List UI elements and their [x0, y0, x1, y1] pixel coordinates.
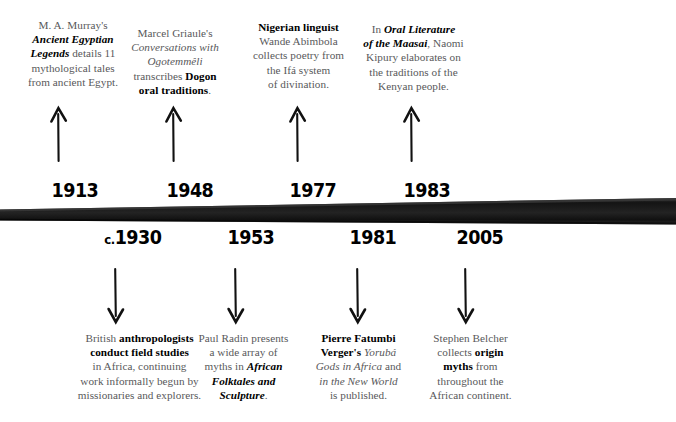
- text-line: Kenyan people.: [345, 79, 482, 93]
- timeline-bar: [0, 198, 676, 232]
- text-line: Stephen Belcher: [408, 331, 533, 345]
- text-line: a wide array of: [178, 345, 309, 359]
- year-label-2005: 2005: [457, 228, 504, 248]
- timeline-infographic: M. A. Murray'sAncient EgyptianLegends de…: [0, 0, 676, 422]
- text-line: In Oral Literature: [345, 22, 482, 36]
- year-label-1953: 1953: [228, 228, 275, 248]
- event-text-1948: Marcel Griaule'sConversations withOgotem…: [110, 26, 240, 97]
- text-line: Sculpture.: [178, 388, 309, 402]
- event-text-1953: Paul Radin presentsa wide array ofmyths …: [178, 331, 309, 402]
- down-arrow-icon-c1930: [107, 268, 125, 326]
- text-line: Conversations with: [110, 40, 240, 54]
- text-line: the traditions of the: [345, 65, 482, 79]
- text-line: of the Maasai, Naomi: [345, 36, 482, 50]
- event-text-1983: In Oral Literatureof the Maasai, NaomiKi…: [345, 22, 482, 93]
- up-arrow-icon-1948: [165, 104, 183, 162]
- text-line: is published.: [293, 388, 424, 402]
- down-arrow-icon-1953: [227, 268, 245, 326]
- year-value: 1930: [115, 226, 162, 249]
- text-line: myths in African: [178, 359, 309, 373]
- text-line: transcribes Dogon: [110, 69, 240, 83]
- text-line: Paul Radin presents: [178, 331, 309, 345]
- text-line: African continent.: [408, 388, 533, 402]
- text-line: collects origin: [408, 345, 533, 359]
- text-line: oral traditions.: [110, 83, 240, 97]
- text-line: Pierre Fatumbi: [293, 331, 424, 345]
- year-label-c1930: c.1930: [104, 228, 161, 248]
- text-line: Gods in Africa and: [293, 359, 424, 373]
- year-prefix: c.: [104, 232, 114, 247]
- up-arrow-icon-1983: [403, 104, 421, 162]
- event-text-1981: Pierre FatumbiVerger's YorubáGods in Afr…: [293, 331, 424, 402]
- text-line: Kipury elaborates on: [345, 50, 482, 64]
- text-line: Folktales and: [178, 374, 309, 388]
- text-line: myths from: [408, 359, 533, 373]
- up-arrow-icon-1913: [50, 104, 68, 162]
- up-arrow-icon-1977: [289, 104, 307, 162]
- text-line: Ogotemmêli: [110, 54, 240, 68]
- text-line: throughout the: [408, 374, 533, 388]
- text-line: Marcel Griaule's: [110, 26, 240, 40]
- down-arrow-icon-2005: [457, 268, 475, 326]
- text-line: Verger's Yorubá: [293, 345, 424, 359]
- down-arrow-icon-1981: [349, 268, 367, 326]
- year-value: 1953: [228, 226, 275, 249]
- event-text-2005: Stephen Belchercollects originmyths from…: [408, 331, 533, 402]
- year-label-1981: 1981: [350, 228, 397, 248]
- year-value: 1981: [350, 226, 397, 249]
- year-value: 2005: [457, 226, 504, 249]
- text-line: in the New World: [293, 374, 424, 388]
